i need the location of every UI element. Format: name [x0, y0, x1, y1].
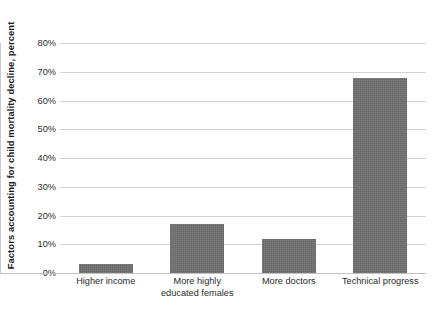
x-tick-label-line: educated females [161, 288, 234, 300]
x-tick-label: More highlyeducated females [161, 276, 234, 299]
x-tick-label: Higher income [76, 276, 135, 288]
bar [170, 224, 224, 273]
bar [353, 78, 407, 274]
y-tick-label: 80% [38, 38, 56, 48]
y-tick-label: 60% [38, 96, 56, 106]
bar [79, 264, 133, 273]
y-axis-title: Factors accounting for child mortality d… [0, 0, 22, 290]
y-tick-label: 20% [38, 211, 56, 221]
x-tick-label-line: More doctors [262, 276, 316, 288]
y-axis-title-text: Factors accounting for child mortality d… [6, 21, 17, 269]
x-tick-label: More doctors [262, 276, 316, 288]
bar [262, 239, 316, 274]
x-tick-label-line: Technical progress [342, 276, 419, 288]
x-tick-label: Technical progress [342, 276, 419, 288]
gridline-0% [60, 273, 426, 274]
x-axis-tick-labels: Higher incomeMore highlyeducated females… [60, 276, 426, 312]
bar-chart: Factors accounting for child mortality d… [0, 0, 443, 314]
x-tick-label-line: Higher income [76, 276, 135, 288]
y-axis-tick-labels: 0%10%20%30%40%50%60%70%80% [22, 36, 58, 276]
plot-area [60, 43, 426, 273]
y-tick-label: 40% [38, 153, 56, 163]
y-tick-label: 70% [38, 67, 56, 77]
y-tick-label: 50% [38, 124, 56, 134]
y-tick-label: 10% [38, 239, 56, 249]
x-tick-label-line: More highly [161, 276, 234, 288]
y-tick-label: 30% [38, 182, 56, 192]
bars-group [60, 43, 426, 273]
y-axis-line [0, 43, 1, 274]
